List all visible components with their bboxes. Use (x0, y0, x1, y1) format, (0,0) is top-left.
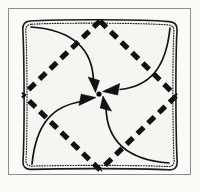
origami-fold-diagram (0, 0, 200, 192)
center-dot (96, 91, 101, 96)
figure-container (0, 0, 200, 192)
